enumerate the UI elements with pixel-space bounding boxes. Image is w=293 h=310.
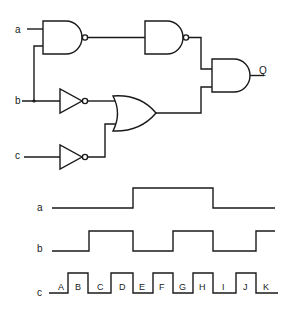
wire-or-out [156, 87, 212, 113]
input-label-a: a [15, 24, 21, 35]
interval-label-b: B [75, 282, 81, 292]
interval-label-c: C [97, 282, 104, 292]
wire-b-to-nand1 [34, 46, 43, 101]
nand-gate-2 [145, 21, 189, 54]
interval-label-f: F [159, 282, 165, 292]
waveform-b [52, 231, 275, 251]
output-label-q: Q [259, 65, 267, 76]
interval-label-g: G [179, 282, 186, 292]
timing-label-a: a [37, 202, 43, 213]
wire-notc-out [88, 124, 117, 157]
interval-label-k: K [263, 282, 269, 292]
interval-label-i: I [222, 282, 225, 292]
interval-label-j: J [243, 282, 248, 292]
input-label-c: c [15, 150, 20, 161]
nand-gate-1 [43, 21, 88, 54]
not-gate-c [60, 145, 88, 169]
or-gate [113, 96, 156, 131]
input-label-b: b [15, 95, 21, 106]
not-gate-b [60, 89, 88, 113]
junction-dot [32, 99, 35, 102]
timing-label-b: b [37, 243, 43, 254]
interval-label-h: H [199, 282, 206, 292]
waveform-a [52, 188, 275, 208]
interval-label-a: A [58, 282, 64, 292]
interval-label-d: D [119, 282, 126, 292]
timing-label-c: c [37, 287, 42, 298]
logic-circuit-diagram: a b c Q a b c [0, 0, 293, 310]
wire-nand2-out [189, 38, 212, 70]
interval-label-e: E [139, 282, 145, 292]
and-gate-output [212, 59, 250, 92]
